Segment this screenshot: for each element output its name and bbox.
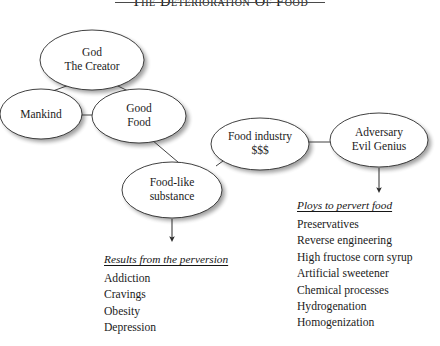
node-good-food-line2: Food (92, 116, 186, 130)
list-item: Preservatives (297, 217, 413, 233)
node-adversary-line2: Evil Genius (330, 140, 428, 154)
node-label-mankind: Mankind (0, 108, 82, 122)
node-good-food (92, 89, 186, 143)
title-block: The Deterioration of Food (0, 0, 440, 9)
node-mankind (0, 89, 82, 139)
node-food-like (122, 162, 222, 218)
list-item: High fructose corn syrup (297, 250, 413, 266)
node-label-food-industry: Food industry $$$ (211, 130, 309, 157)
node-adversary (330, 113, 428, 167)
ellipse-outlines (0, 30, 428, 218)
node-god-line2: The Creator (40, 60, 144, 74)
node-label-good-food: Good Food (92, 102, 186, 129)
node-god-line1: God (40, 46, 144, 60)
node-food-like-line2: substance (122, 190, 222, 204)
edge-god-goodfood (114, 84, 130, 92)
list-item: Hydrogenation (297, 299, 413, 315)
title-rule (115, 2, 325, 3)
list-item: Reverse engineering (297, 233, 413, 249)
node-label-god: God The Creator (40, 46, 144, 73)
results-list-heading: Results from the perversion (104, 252, 228, 266)
list-item: Depression (104, 320, 228, 336)
diagram-canvas: The Deterioration of Food (0, 0, 440, 346)
ploys-list: Ploys to pervert food Preservatives Reve… (297, 198, 413, 332)
ellipse-shadows (0, 30, 428, 218)
node-adversary-line1: Adversary (330, 126, 428, 140)
list-item: Addiction (104, 271, 228, 287)
list-item: Obesity (104, 304, 228, 320)
node-label-food-like: Food-like substance (122, 176, 222, 203)
node-label-adversary: Adversary Evil Genius (330, 126, 428, 153)
node-mankind-line1: Mankind (0, 108, 82, 122)
connector-lines (50, 84, 331, 168)
node-food-industry-line1: Food industry (211, 130, 309, 144)
node-good-food-line1: Good (92, 102, 186, 116)
node-food-industry-line2: $$$ (211, 144, 309, 158)
edge-god-mankind (50, 84, 72, 92)
list-item: Cravings (104, 287, 228, 303)
results-list: Results from the perversion Addiction Cr… (104, 252, 228, 337)
edge-goodfood-foodlike (152, 140, 185, 168)
edge-foodindustry-foodlike (216, 151, 237, 166)
node-food-like-line1: Food-like (122, 176, 222, 190)
list-item: Artificial sweetener (297, 266, 413, 282)
list-item: Homogenization (297, 315, 413, 331)
list-item: Chemical processes (297, 283, 413, 299)
node-food-industry (211, 118, 309, 170)
ploys-list-heading: Ploys to pervert food (297, 198, 413, 212)
node-god (40, 30, 144, 90)
